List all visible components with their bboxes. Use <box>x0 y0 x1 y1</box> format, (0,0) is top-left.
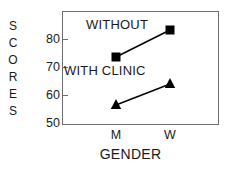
x-tick-label-w: W <box>164 128 176 142</box>
y-tick-label: 60 <box>26 88 60 102</box>
x-tick-label-m: M <box>111 128 121 142</box>
x-axis-title-text: GENDER <box>100 146 162 162</box>
y-axis-title-letter: C <box>9 37 18 54</box>
y-tick-label: 70 <box>26 60 60 74</box>
y-axis-title: S C O R E S <box>4 20 22 122</box>
y-tick-mark <box>63 39 68 40</box>
y-axis-title-letter: S <box>9 105 17 122</box>
y-axis-title-letter: R <box>9 71 18 88</box>
y-tick-mark <box>63 95 68 96</box>
x-axis-title: GENDER <box>0 146 233 162</box>
y-axis-title-letter: O <box>8 54 17 71</box>
series-label-without: WITHOUT <box>86 17 148 32</box>
y-axis-title-letter: S <box>9 20 17 37</box>
y-axis-title-letter: E <box>9 88 17 105</box>
y-tick-label: 80 <box>26 32 60 46</box>
y-tick-label: 50 <box>26 116 60 130</box>
chart-container: S C O R E S 80 70 60 50 WITHOUT WITH <box>0 0 233 170</box>
y-axis-tick-labels: 80 70 60 50 <box>22 0 60 170</box>
series-label-with-clinic: WITH CLINIC <box>64 63 146 78</box>
